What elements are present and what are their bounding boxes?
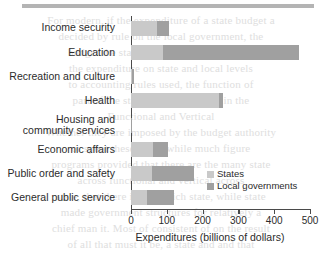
x-axis-title: Expenditures (billions of dollars) [120, 231, 300, 243]
category-label: Housing andcommunity services [0, 114, 115, 137]
bar-row: Health [131, 93, 310, 108]
legend-swatch [207, 183, 214, 190]
bar-row: Economic affairs [131, 142, 310, 157]
bar-segment [157, 21, 169, 36]
category-label: Recreation and culture [0, 71, 115, 83]
bar-segment [147, 190, 174, 205]
x-axis-tick-label: 500 [302, 215, 319, 226]
bar-row: Housing andcommunity services [131, 118, 310, 133]
bar-segment [131, 142, 153, 157]
x-axis-tick [203, 210, 204, 214]
x-axis-tick [310, 210, 311, 214]
legend-entry: States [207, 168, 297, 180]
legend-label: Local governments [217, 180, 297, 192]
x-axis-tick [274, 210, 275, 214]
bar-segment [163, 45, 299, 60]
bar-row: Education [131, 45, 310, 60]
bar-segment [152, 166, 194, 181]
legend-swatch [207, 171, 214, 178]
category-label: Health [0, 95, 115, 107]
stacked-bar-chart: Income securityEducationRecreation and c… [0, 0, 322, 265]
bar-row: Income security [131, 21, 310, 36]
bar-segment [131, 21, 157, 36]
bar-segment [131, 166, 152, 181]
category-label: General public service [0, 192, 115, 204]
legend-entry: Local governments [207, 180, 297, 192]
x-axis-tick-label: 400 [266, 215, 283, 226]
chart-legend: StatesLocal governments [207, 168, 297, 192]
bar-segment [131, 190, 147, 205]
bar-row: General public service [131, 190, 310, 205]
bar-segment [153, 142, 168, 157]
category-label: Public order and safety [0, 168, 115, 180]
bar-segment [131, 93, 219, 108]
bar-segment [132, 69, 134, 84]
x-axis-tick [131, 210, 132, 214]
bar-segment [131, 45, 163, 60]
category-label: Economic affairs [0, 144, 115, 156]
x-axis-tick [167, 210, 168, 214]
x-axis-tick-label: 300 [230, 215, 247, 226]
x-axis-tick-label: 100 [158, 215, 175, 226]
category-label: Education [0, 47, 115, 59]
bar-row: Recreation and culture [131, 69, 310, 84]
x-axis-tick-label: 200 [194, 215, 211, 226]
x-axis-tick-label: 0 [128, 215, 134, 226]
x-axis-tick [238, 210, 239, 214]
legend-label: States [217, 168, 244, 180]
category-label: Income security [0, 22, 115, 34]
bar-segment [219, 93, 224, 108]
